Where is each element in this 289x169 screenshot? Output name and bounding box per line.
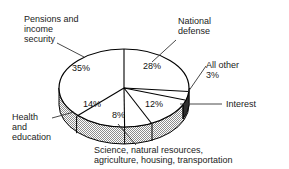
value-interest: 12% xyxy=(145,99,163,109)
pie-chart-figure: Pensions and income security National de… xyxy=(0,0,289,169)
label-all-other-pct: 3% xyxy=(206,70,219,81)
label-interest: Interest xyxy=(226,99,256,110)
label-science-line2: agriculture, housing, transportation xyxy=(94,155,233,166)
label-health-line3: education xyxy=(12,132,51,143)
label-national-defense-line1: National xyxy=(178,16,211,27)
leader-all-other xyxy=(188,66,206,92)
label-pensions-line2: income xyxy=(24,24,53,35)
label-pensions-line3: security xyxy=(24,34,55,45)
value-national-defense: 28% xyxy=(143,61,161,71)
label-science-line1: Science, natural resources, xyxy=(94,145,203,156)
label-health-line2: and xyxy=(12,122,27,133)
value-science: 8% xyxy=(112,110,125,120)
label-national-defense-line2: defense xyxy=(178,26,210,37)
value-health: 14% xyxy=(83,99,101,109)
leader-pensions xyxy=(57,43,84,57)
label-pensions-line1: Pensions and xyxy=(24,14,79,25)
slice-divider-science-health xyxy=(124,88,125,127)
value-pensions: 35% xyxy=(72,63,90,73)
label-all-other-line1: All other xyxy=(206,60,239,71)
label-health-line1: Health xyxy=(12,112,38,123)
